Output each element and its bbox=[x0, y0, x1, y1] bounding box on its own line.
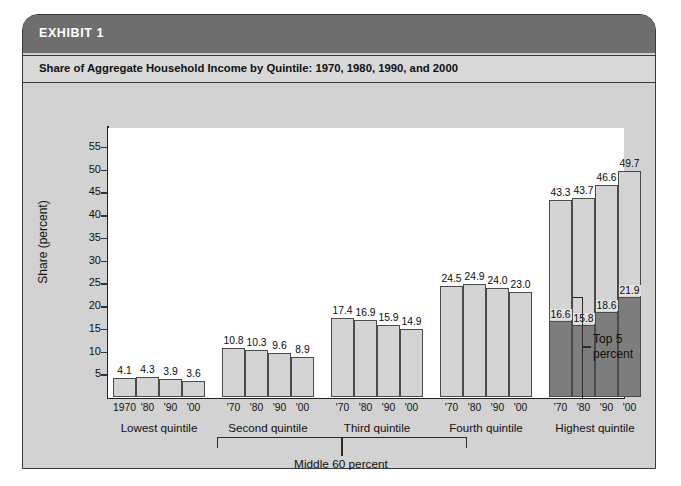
x-axis-group-label: Third quintile bbox=[344, 421, 410, 434]
x-axis-tick-label: '00 bbox=[405, 402, 418, 413]
bar-value-label: 3.6 bbox=[186, 368, 200, 379]
y-axis-tick-label: 5 bbox=[73, 367, 101, 379]
bar-value-label: 3.9 bbox=[163, 366, 177, 377]
y-axis-tick-label: 25 bbox=[73, 276, 101, 288]
x-axis-tick-label: '90 bbox=[382, 402, 395, 413]
bar bbox=[400, 329, 423, 397]
bar bbox=[136, 377, 159, 397]
x-axis-tick-label: '70 bbox=[445, 402, 458, 413]
bar bbox=[245, 350, 268, 397]
bar-value-label: 10.8 bbox=[223, 335, 243, 346]
x-axis-group-label: Highest quintile bbox=[555, 421, 634, 434]
exhibit-subtitle-bar: Share of Aggregate Household Income by Q… bbox=[23, 55, 655, 83]
bar-value-label: 4.1 bbox=[117, 365, 131, 376]
bar-value-label-top5: 21.9 bbox=[618, 285, 640, 296]
bar-value-label: 15.9 bbox=[378, 312, 398, 323]
x-axis-tick-label: '80 bbox=[577, 402, 590, 413]
bar-value-label-top5: 16.6 bbox=[549, 309, 571, 320]
bar bbox=[440, 286, 463, 397]
bar-segment-top5 bbox=[549, 321, 572, 397]
x-axis-tick-label: '80 bbox=[250, 402, 263, 413]
bar-value-label: 14.9 bbox=[401, 316, 421, 327]
x-axis-group-label: Second quintile bbox=[228, 421, 307, 434]
bar bbox=[331, 318, 354, 397]
x-axis-tick-label: '00 bbox=[623, 402, 636, 413]
x-axis-group-label: Fourth quintile bbox=[449, 421, 522, 434]
y-axis-tick-label: 55 bbox=[73, 140, 101, 152]
x-axis-tick-label: '00 bbox=[514, 402, 527, 413]
bar-value-label: 9.6 bbox=[272, 340, 286, 351]
y-axis-tick-label: 50 bbox=[73, 163, 101, 175]
bar bbox=[486, 288, 509, 397]
x-axis-tick-label: 1970 bbox=[113, 402, 136, 413]
bar-value-label: 17.4 bbox=[332, 305, 352, 316]
top-5-percent-label-line1: Top 5 bbox=[593, 332, 633, 347]
bar bbox=[354, 320, 377, 397]
top-5-percent-label-line2: percent bbox=[593, 347, 633, 362]
middle-60-label: Middle 60 percent bbox=[294, 457, 388, 471]
x-axis-tick-label: '70 bbox=[227, 402, 240, 413]
y-axis-tick-label: 35 bbox=[73, 231, 101, 243]
x-axis-tick-label: '90 bbox=[273, 402, 286, 413]
chart-title: Share of Aggregate Household Income by Q… bbox=[39, 62, 458, 74]
bar-value-label-top5: 18.6 bbox=[595, 300, 617, 311]
bar bbox=[377, 325, 400, 397]
x-axis-tick-label: '70 bbox=[554, 402, 567, 413]
bar bbox=[182, 381, 205, 397]
bar bbox=[222, 348, 245, 397]
bar-value-label: 10.3 bbox=[246, 337, 266, 348]
x-axis-tick-label: '00 bbox=[187, 402, 200, 413]
bar-value-label: 24.0 bbox=[487, 275, 507, 286]
y-axis-tick-label: 30 bbox=[73, 254, 101, 266]
bar-value-label: 23.0 bbox=[510, 279, 530, 290]
x-axis-tick-label: '90 bbox=[164, 402, 177, 413]
middle-60-brace-stem bbox=[341, 437, 343, 456]
bar-value-label: 24.5 bbox=[441, 273, 461, 284]
bar-value-label: 46.6 bbox=[596, 172, 616, 183]
x-axis-tick-label: '90 bbox=[600, 402, 613, 413]
bar bbox=[509, 292, 532, 397]
bar-value-label: 43.3 bbox=[550, 187, 570, 198]
chart-area: Share (percent) 510152025303540455055 4.… bbox=[23, 85, 655, 468]
bar-value-label: 8.9 bbox=[295, 344, 309, 355]
x-axis-tick-label: '80 bbox=[359, 402, 372, 413]
exhibit-label: EXHIBIT 1 bbox=[39, 26, 104, 40]
y-axis-tick-label: 45 bbox=[73, 185, 101, 197]
bar bbox=[113, 378, 136, 397]
x-axis-tick-label: '80 bbox=[468, 402, 481, 413]
bar-value-label: 24.9 bbox=[464, 271, 484, 282]
bar-value-label: 49.7 bbox=[619, 158, 639, 169]
y-axis-tick-label: 40 bbox=[73, 208, 101, 220]
bar bbox=[463, 284, 486, 397]
y-axis-tick-label: 10 bbox=[73, 345, 101, 357]
x-axis-tick-label: '90 bbox=[491, 402, 504, 413]
y-axis-tick-label: 15 bbox=[73, 322, 101, 334]
top-5-percent-brace-stem bbox=[582, 346, 591, 348]
top-5-percent-label: Top 5 percent bbox=[593, 332, 633, 362]
bar bbox=[291, 357, 314, 397]
bar-value-label: 4.3 bbox=[140, 364, 154, 375]
exhibit-panel: EXHIBIT 1 Share of Aggregate Household I… bbox=[22, 14, 656, 469]
bar bbox=[159, 379, 182, 397]
y-axis-title: Share (percent) bbox=[36, 162, 50, 322]
x-axis-group-label: Lowest quintile bbox=[121, 421, 198, 434]
bar bbox=[268, 353, 291, 397]
x-axis-tick-label: '70 bbox=[336, 402, 349, 413]
bar-value-label: 16.9 bbox=[355, 307, 375, 318]
exhibit-header-bar: EXHIBIT 1 bbox=[23, 15, 655, 53]
bar-value-label: 43.7 bbox=[573, 185, 593, 196]
top-5-percent-brace bbox=[573, 297, 583, 399]
y-axis-tick-label: 20 bbox=[73, 299, 101, 311]
x-axis-tick-label: '80 bbox=[141, 402, 154, 413]
x-axis-tick-label: '00 bbox=[296, 402, 309, 413]
